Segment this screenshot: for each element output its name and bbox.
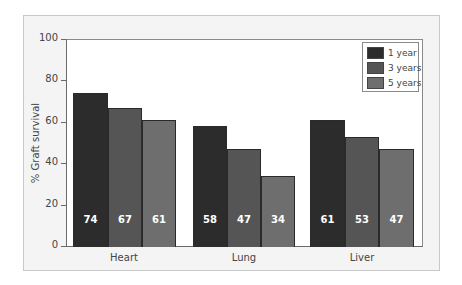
bar-value-label: 58 [194, 214, 226, 225]
bar-value-label: 53 [346, 214, 378, 225]
x-label-liver: Liver [332, 252, 392, 263]
legend-swatch [367, 62, 384, 74]
bar-lung-3-years: 47 [227, 149, 261, 247]
legend-item-1-year: 1 year [367, 47, 417, 59]
y-label-0: 0 [28, 239, 58, 250]
bar-liver-5-years: 47 [379, 149, 414, 247]
legend-label: 5 years [388, 78, 421, 88]
bar-liver-1-year: 61 [310, 120, 345, 247]
bar-value-label: 74 [74, 214, 107, 225]
legend-label: 1 year [388, 48, 417, 58]
x-label-heart: Heart [94, 252, 154, 263]
y-tick-0 [61, 246, 66, 247]
legend-swatch [367, 47, 384, 59]
bar-liver-3-years: 53 [345, 137, 379, 247]
y-tick-20 [61, 205, 66, 206]
y-tick-60 [61, 122, 66, 123]
y-label-100: 100 [28, 32, 58, 43]
legend-swatch [367, 77, 384, 89]
x-label-lung: Lung [214, 252, 274, 263]
bar-lung-5-years: 34 [261, 176, 295, 247]
legend-item-5-years: 5 years [367, 77, 421, 89]
y-label-80: 80 [28, 73, 58, 84]
y-tick-40 [61, 163, 66, 164]
y-tick-100 [61, 39, 66, 40]
legend: 1 year 3 years 5 years [362, 42, 419, 92]
legend-item-3-years: 3 years [367, 62, 421, 74]
bar-value-label: 47 [228, 214, 260, 225]
bar-lung-1-year: 58 [193, 126, 227, 247]
bar-value-label: 61 [143, 214, 175, 225]
y-axis-title: % Graft survival [30, 103, 41, 183]
bar-value-label: 61 [311, 214, 344, 225]
bar-heart-3-years: 67 [108, 108, 142, 247]
bar-value-label: 47 [380, 214, 413, 225]
bar-heart-1-year: 74 [73, 93, 108, 247]
bar-value-label: 67 [109, 214, 141, 225]
legend-label: 3 years [388, 63, 421, 73]
y-tick-80 [61, 80, 66, 81]
bar-heart-5-years: 61 [142, 120, 176, 247]
bar-value-label: 34 [262, 214, 294, 225]
y-label-20: 20 [28, 198, 58, 209]
